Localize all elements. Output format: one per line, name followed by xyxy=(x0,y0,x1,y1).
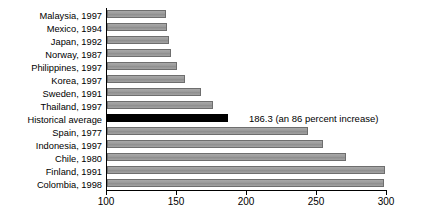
historical-average-annotation: 186.3 (an 86 percent increase) xyxy=(249,114,378,124)
category-label-malaysia: Malaysia, 1997 xyxy=(0,12,102,21)
bar-spain xyxy=(107,127,308,135)
bar-chart: Malaysia, 1997 Mexico, 1994 Japan, 1992 … xyxy=(0,0,438,222)
x-tick-label-100: 100 xyxy=(86,196,126,207)
category-label-philippines: Philippines, 1997 xyxy=(0,64,102,73)
bar-sweden xyxy=(107,88,201,96)
x-tick-label-300: 300 xyxy=(366,196,406,207)
bar-thailand xyxy=(107,101,213,109)
x-tick-300 xyxy=(386,191,387,195)
category-label-norway: Norway, 1987 xyxy=(0,51,102,60)
category-label-indonesia: Indonesia, 1997 xyxy=(0,142,102,151)
x-tick-100 xyxy=(106,191,107,195)
bar-historical-average xyxy=(107,114,228,122)
bar-malaysia xyxy=(107,10,166,18)
bar-mexico xyxy=(107,23,167,31)
x-tick-250 xyxy=(316,191,317,195)
category-label-sweden: Sweden, 1991 xyxy=(0,90,102,99)
x-tick-150 xyxy=(176,191,177,195)
bar-indonesia xyxy=(107,140,323,148)
category-label-mexico: Mexico, 1994 xyxy=(0,25,102,34)
x-tick-label-150: 150 xyxy=(156,196,196,207)
bar-japan xyxy=(107,36,169,44)
category-label-korea: Korea, 1997 xyxy=(0,77,102,86)
bar-chile xyxy=(107,153,346,161)
bar-korea xyxy=(107,75,185,83)
category-label-colombia: Colombia, 1998 xyxy=(0,181,102,190)
x-tick-200 xyxy=(246,191,247,195)
bar-norway xyxy=(107,49,171,57)
x-tick-label-250: 250 xyxy=(296,196,336,207)
category-label-finland: Finland, 1991 xyxy=(0,168,102,177)
category-label-chile: Chile, 1980 xyxy=(0,155,102,164)
category-label-thailand: Thailand, 1997 xyxy=(0,103,102,112)
category-label-historical-average: Historical average xyxy=(0,116,102,125)
bar-colombia xyxy=(107,179,384,187)
bar-finland xyxy=(107,166,385,174)
category-label-spain: Spain, 1977 xyxy=(0,129,102,138)
category-label-japan: Japan, 1992 xyxy=(0,38,102,47)
x-tick-label-200: 200 xyxy=(226,196,266,207)
bar-philippines xyxy=(107,62,177,70)
